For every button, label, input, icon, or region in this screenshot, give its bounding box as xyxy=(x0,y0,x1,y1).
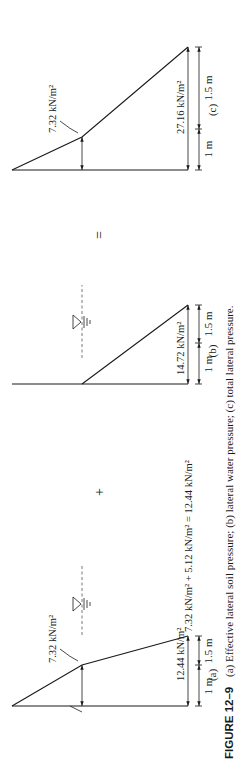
leader-curve xyxy=(60,649,78,661)
figure-caption: (a) Effective lateral soil pressure; (b)… xyxy=(223,305,236,677)
pressure-mid-label: 7.32 kN/m² xyxy=(47,85,58,133)
pressure-profile xyxy=(82,305,188,384)
water-table-icon xyxy=(73,597,90,611)
figure-number: FIGURE 12–9 xyxy=(223,687,235,759)
dim-bottom-label: 1.5 m xyxy=(202,75,214,101)
figure-canvas: 1 m 1.5 m 7.32 kN/m² 12.44 kN/m² 7.32 kN… xyxy=(0,0,240,769)
leader-curve xyxy=(60,121,78,133)
pressure-base-label: 14.72 kN/m² xyxy=(175,322,186,375)
plus-operator: + xyxy=(92,488,107,496)
equals-operator: = xyxy=(92,231,107,239)
pressure-base-label: 12.44 kN/m² xyxy=(175,628,186,681)
dim-top-label: 1 m xyxy=(202,140,214,157)
panel-a: 1 m 1.5 m 7.32 kN/m² 12.44 kN/m² 7.32 kN… xyxy=(12,460,219,712)
pressure-mid-label: 7.32 kN/m² xyxy=(47,615,58,663)
tick-mark xyxy=(70,706,82,712)
base-equation: 7.32 kN/m² + 5.12 kN/m² = 12.44 kN/m² xyxy=(183,460,194,632)
dim-bottom-label: 1.5 m xyxy=(202,638,214,664)
panel-label-b: (b) xyxy=(206,344,219,357)
panel-b: 1 m 1.5 m 14.72 kN/m² (b) xyxy=(12,285,219,384)
panel-c: 1 m 1.5 m 7.32 kN/m² 27.16 kN/m² (c) xyxy=(12,47,219,170)
pressure-profile xyxy=(12,47,188,170)
dim-bottom-label: 1.5 m xyxy=(202,311,214,337)
pressure-profile xyxy=(12,636,188,706)
pressure-base-label: 27.16 kN/m² xyxy=(175,81,186,134)
panel-label-a: (a) xyxy=(206,669,219,682)
water-table-icon xyxy=(73,315,90,329)
panel-label-c: (c) xyxy=(206,104,219,117)
